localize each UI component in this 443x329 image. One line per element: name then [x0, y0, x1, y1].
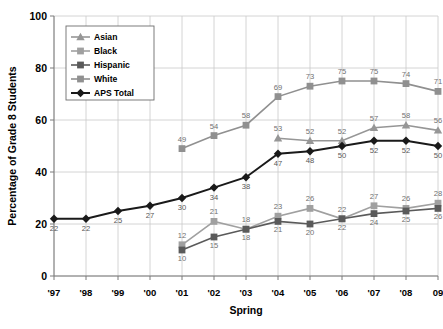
- data-point-label: 38: [242, 182, 250, 191]
- series-marker-square: [307, 83, 314, 90]
- data-point-label: 22: [82, 224, 90, 233]
- data-point-label: 47: [274, 159, 282, 168]
- series-marker-square: [371, 78, 378, 85]
- data-point-label: 71: [434, 77, 442, 86]
- chart-container: 020406080100'97'98'99'00'01'02'03'04'05'…: [0, 0, 443, 329]
- data-point-label: 74: [402, 70, 410, 79]
- series-marker-square: [307, 221, 314, 228]
- y-axis-title: Percentage of Grade 8 Students: [6, 66, 18, 225]
- series-marker-square: [77, 62, 84, 69]
- data-point-label: 26: [434, 212, 442, 221]
- series-marker-diamond: [50, 215, 58, 223]
- data-point-label: 52: [338, 127, 346, 136]
- data-point-label: 30: [178, 203, 186, 212]
- y-tick-label: 80: [35, 62, 47, 74]
- series-marker-diamond: [82, 215, 90, 223]
- data-point-label: 10: [178, 254, 186, 263]
- series-asian: 535252575856: [274, 111, 442, 144]
- x-tick-label: '97: [48, 287, 61, 298]
- data-point-label: 20: [306, 228, 314, 237]
- y-tick-label: 20: [35, 218, 47, 230]
- series-marker-diamond: [402, 137, 410, 145]
- x-tick-label: '07: [368, 287, 381, 298]
- series-marker-diamond: [146, 202, 154, 210]
- series-marker-square: [211, 218, 218, 225]
- data-point-label: 12: [178, 231, 186, 240]
- series-marker-square: [77, 48, 84, 55]
- x-tick-label: '03: [240, 287, 253, 298]
- series-marker-diamond: [114, 207, 122, 215]
- legend-label: Black: [94, 46, 117, 56]
- data-point-label: 73: [306, 72, 314, 81]
- x-tick-label: '99: [112, 287, 125, 298]
- x-tick-label: '08: [400, 287, 413, 298]
- data-point-label: 25: [402, 215, 410, 224]
- data-point-label: 53: [274, 124, 282, 133]
- series-marker-square: [339, 215, 346, 222]
- data-point-label: 24: [370, 218, 378, 227]
- data-point-label: 75: [370, 67, 378, 76]
- data-point-label: 56: [434, 116, 442, 125]
- series-marker-square: [243, 226, 250, 233]
- data-point-label: 21: [274, 225, 282, 234]
- data-point-label: 26: [306, 194, 314, 203]
- data-point-label: 50: [338, 151, 346, 160]
- series-marker-square: [275, 93, 282, 100]
- y-tick-label: 40: [35, 166, 47, 178]
- x-tick-label: '00: [144, 287, 157, 298]
- data-point-label: 49: [178, 135, 186, 144]
- data-point-label: 15: [210, 241, 218, 250]
- data-point-label: 52: [306, 127, 314, 136]
- legend: AsianBlackHispanicWhiteAPS Total: [66, 26, 154, 100]
- data-point-label: 50: [434, 151, 442, 160]
- series-marker-square: [77, 76, 84, 83]
- legend-label: White: [94, 74, 118, 84]
- series-marker-square: [403, 208, 410, 215]
- data-point-label: 27: [146, 211, 154, 220]
- series-marker-diamond: [210, 183, 218, 191]
- data-point-label: 18: [242, 233, 250, 242]
- data-point-label: 23: [274, 202, 282, 211]
- series-marker-diamond: [178, 194, 186, 202]
- data-point-label: 48: [306, 156, 314, 165]
- data-point-label: 25: [114, 216, 122, 225]
- series-line: [278, 125, 438, 141]
- series-marker-square: [435, 205, 442, 212]
- data-point-label: 26: [402, 194, 410, 203]
- x-axis-title: Spring: [229, 304, 262, 316]
- series-marker-square: [211, 132, 218, 139]
- series-marker-diamond: [370, 137, 378, 145]
- data-point-label: 69: [274, 83, 282, 92]
- data-point-label: 22: [338, 205, 346, 214]
- x-tick-label: '06: [336, 287, 349, 298]
- legend-label: APS Total: [94, 88, 134, 98]
- legend-label: Hispanic: [94, 60, 130, 70]
- series-marker-square: [275, 218, 282, 225]
- y-tick-label: 60: [35, 114, 47, 126]
- x-tick-label: '01: [176, 287, 190, 298]
- data-point-label: 58: [242, 111, 250, 120]
- series-marker-square: [371, 202, 378, 209]
- legend-label: Asian: [94, 32, 117, 42]
- data-point-label: 22: [338, 223, 346, 232]
- data-point-label: 52: [402, 146, 410, 155]
- series-marker-diamond: [434, 142, 442, 150]
- series-marker-diamond: [306, 147, 314, 155]
- x-tick-label: '04: [272, 287, 286, 298]
- data-point-label: 57: [370, 114, 378, 123]
- x-tick-label: 09: [433, 287, 443, 298]
- data-point-label: 28: [434, 189, 442, 198]
- series-marker-square: [179, 247, 186, 254]
- line-chart-svg: 020406080100'97'98'99'00'01'02'03'04'05'…: [0, 0, 443, 329]
- series-marker-square: [243, 122, 250, 129]
- x-tick-label: '05: [304, 287, 318, 298]
- data-point-label: 52: [370, 146, 378, 155]
- data-point-label: 18: [242, 215, 250, 224]
- data-point-label: 75: [338, 67, 346, 76]
- series-marker-square: [307, 205, 314, 212]
- series-marker-square: [435, 88, 442, 95]
- x-tick-label: '02: [208, 287, 221, 298]
- data-point-label: 27: [370, 192, 378, 201]
- data-point-label: 22: [50, 224, 58, 233]
- data-point-label: 34: [210, 193, 218, 202]
